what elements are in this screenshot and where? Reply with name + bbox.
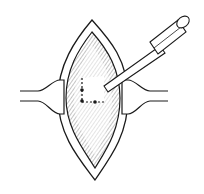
bone-window bbox=[82, 76, 104, 102]
surgical-illustration bbox=[0, 0, 204, 194]
left-retractor bbox=[20, 80, 64, 114]
right-retractor bbox=[122, 80, 168, 114]
